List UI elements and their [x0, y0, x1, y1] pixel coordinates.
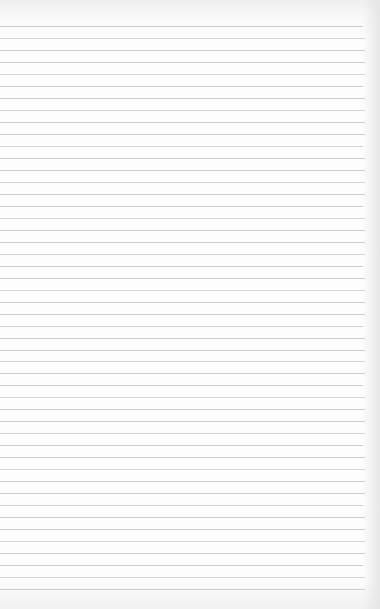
ruled-line — [0, 314, 365, 315]
ruled-line — [0, 110, 365, 111]
ruled-line — [0, 577, 365, 578]
ruled-line — [0, 74, 365, 75]
ruled-line — [0, 266, 363, 267]
ruled-line — [0, 409, 365, 410]
ruled-line — [0, 361, 365, 362]
ruled-line — [0, 242, 365, 243]
ruled-line — [0, 182, 365, 183]
ruled-line — [0, 338, 365, 339]
ruled-line — [0, 481, 365, 482]
ruled-line — [0, 98, 365, 99]
ruled-line — [0, 254, 365, 255]
ruled-line — [0, 529, 365, 530]
ruled-line — [0, 541, 365, 542]
ruled-line — [0, 517, 365, 518]
ruled-line — [0, 445, 363, 446]
ruled-line — [0, 38, 365, 39]
ruled-line — [0, 433, 365, 434]
ruled-line — [0, 218, 365, 219]
ruled-line — [0, 397, 365, 398]
ruled-line — [0, 50, 365, 51]
lined-paper — [0, 0, 380, 609]
ruled-line — [0, 26, 363, 27]
ruled-line — [0, 62, 365, 63]
ruled-line — [0, 134, 365, 135]
ruled-line — [0, 421, 365, 422]
ruled-line — [0, 553, 365, 554]
ruled-line — [0, 505, 363, 506]
ruled-line — [0, 278, 365, 279]
ruled-line — [0, 146, 363, 147]
ruled-line — [0, 86, 363, 87]
ruled-line — [0, 385, 363, 386]
ruled-line — [0, 457, 365, 458]
ruled-line — [0, 350, 365, 351]
ruled-line — [0, 493, 365, 494]
ruled-line — [0, 158, 365, 159]
ruled-line — [0, 326, 363, 327]
ruled-line — [0, 194, 365, 195]
ruled-line — [0, 230, 365, 231]
ruled-line — [0, 565, 363, 566]
ruled-line — [0, 589, 365, 590]
ruled-line — [0, 206, 363, 207]
ruled-line — [0, 469, 365, 470]
ruled-line — [0, 302, 365, 303]
ruled-line — [0, 373, 365, 374]
ruled-line — [0, 170, 365, 171]
ruled-line — [0, 290, 365, 291]
ruled-line — [0, 122, 365, 123]
